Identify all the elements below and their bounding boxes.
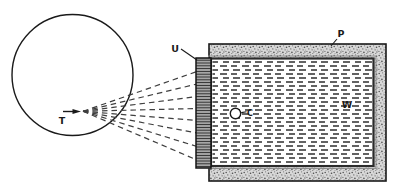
ray-fan [83, 72, 197, 161]
beam-ray [83, 109, 197, 112]
label-p: P [338, 28, 345, 39]
label-u: U [171, 43, 179, 54]
label-t: T [59, 115, 66, 126]
diagram-figure: T U P W C [0, 0, 396, 190]
label-c: C [247, 109, 253, 118]
detection-box [196, 44, 386, 181]
beam-ray [83, 84, 197, 111]
beam-ray [83, 72, 197, 112]
chamber-circle [230, 108, 240, 118]
label-u-leader [181, 49, 197, 60]
label-w: W [342, 99, 353, 110]
window-strip [196, 58, 211, 168]
beam-ray [83, 111, 197, 120]
beam-ray [83, 111, 197, 133]
point-arrow-icon [63, 109, 81, 114]
diagram-canvas: T U P W C [0, 0, 396, 190]
